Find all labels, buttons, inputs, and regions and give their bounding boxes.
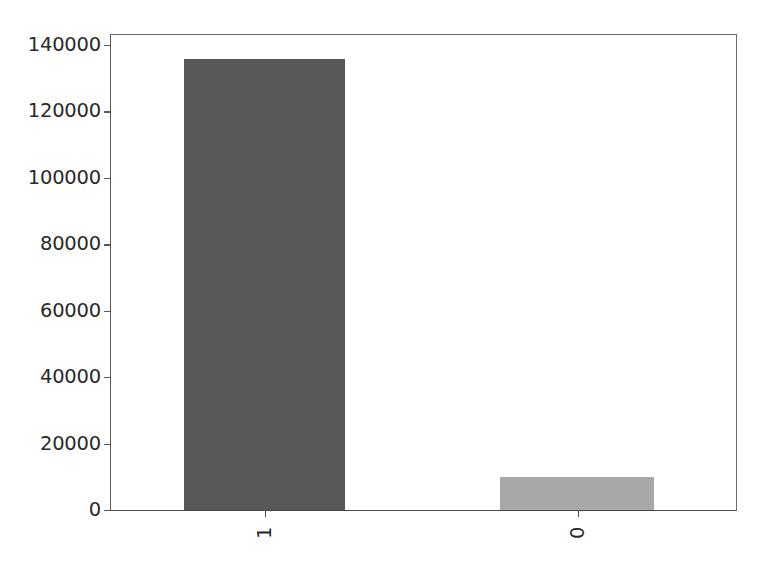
y-tick-mark (104, 377, 111, 378)
y-tick-mark (104, 444, 111, 445)
y-tick-label: 0 (89, 500, 101, 520)
y-tick-label: 80000 (40, 235, 101, 255)
y-tick-label: 140000 (28, 35, 101, 55)
y-tick-label: 100000 (28, 168, 101, 188)
figure-canvas: 0 20000 40000 60000 80000 100000 120000 (0, 0, 764, 562)
y-tick-mark (104, 178, 111, 179)
plot-area: 0 20000 40000 60000 80000 100000 120000 (110, 34, 737, 511)
y-tick-label: 40000 (40, 367, 101, 387)
y-tick-label: 120000 (28, 102, 101, 122)
y-tick-mark (104, 510, 111, 511)
x-tick-label: 0 (568, 527, 588, 539)
y-tick-mark (104, 311, 111, 312)
bar-category-0 (500, 477, 654, 510)
y-tick-label: 20000 (40, 434, 101, 454)
x-tick-mark (265, 510, 266, 517)
y-tick-label: 60000 (40, 301, 101, 321)
y-tick-mark (104, 244, 111, 245)
y-tick-mark (104, 111, 111, 112)
x-tick-mark (578, 510, 579, 517)
y-tick-mark (104, 45, 111, 46)
bar-category-1 (184, 59, 345, 510)
x-tick-label: 1 (255, 527, 275, 539)
